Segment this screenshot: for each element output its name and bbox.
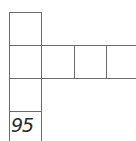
grid-line-col3 bbox=[106, 45, 107, 79]
grid-line-top bbox=[9, 12, 42, 13]
cell-number-label: 95 bbox=[11, 112, 33, 138]
grid-line-col2 bbox=[74, 45, 75, 79]
grid-line-left bbox=[9, 12, 10, 141]
grid-line-row2 bbox=[9, 78, 136, 79]
grid-line-row1 bbox=[9, 45, 136, 46]
grid-line-col1 bbox=[41, 12, 42, 141]
